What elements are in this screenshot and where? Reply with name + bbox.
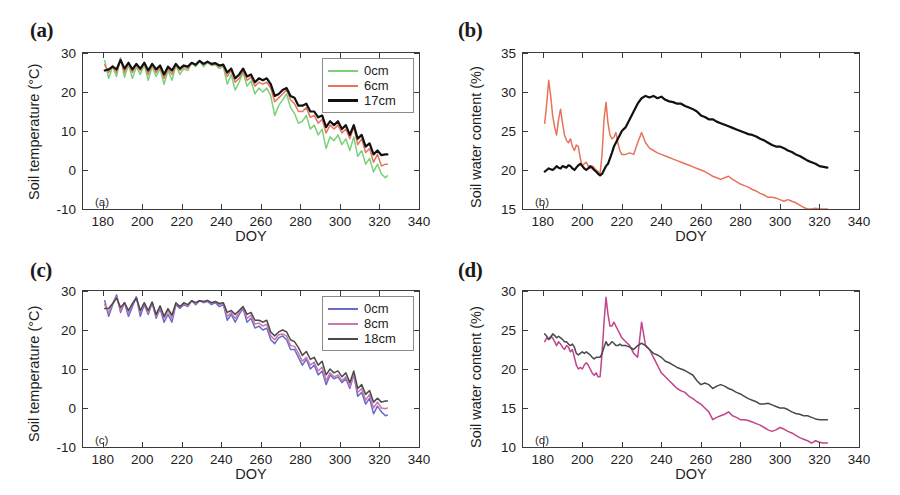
panel-d-axes: [522, 290, 860, 448]
panel-c-legend[interactable]: 0cm8cm18cm: [322, 296, 414, 351]
xtick-mark: [582, 442, 583, 447]
xtick-mark-top: [661, 53, 662, 58]
xtick-mark-top: [142, 53, 143, 58]
legend-entry[interactable]: 18cm: [328, 331, 406, 346]
xtick-mark: [261, 204, 262, 209]
xtick-mark: [701, 442, 702, 447]
ytick-label: 20: [478, 362, 516, 377]
xtick-mark-top: [859, 291, 860, 296]
panel-d-plot: (d) 1015202530 1802002202402602803003203…: [450, 248, 900, 495]
ytick-mark: [523, 447, 528, 448]
ytick-mark: [523, 330, 528, 331]
xtick-label: 320: [368, 214, 391, 229]
legend-entry[interactable]: 0cm: [328, 63, 406, 78]
xtick-label: 260: [250, 214, 273, 229]
legend-label: 0cm: [364, 63, 389, 78]
series-18cm: [545, 334, 828, 420]
xtick-mark: [221, 442, 222, 447]
xtick-mark: [543, 442, 544, 447]
xtick-label: 280: [289, 452, 312, 467]
ytick-mark-right: [854, 131, 859, 132]
ytick-mark: [523, 291, 528, 292]
xtick-label: 200: [131, 214, 154, 229]
xtick-mark-top: [622, 53, 623, 58]
xtick-mark: [661, 442, 662, 447]
ytick-mark-right: [854, 369, 859, 370]
xtick-label: 240: [210, 214, 233, 229]
ytick-mark-right: [414, 330, 419, 331]
xtick-label: 220: [171, 452, 194, 467]
xtick-mark-top: [142, 291, 143, 296]
xtick-mark: [701, 204, 702, 209]
ytick-mark-right: [854, 330, 859, 331]
ytick-label: 15: [478, 401, 516, 416]
xtick-label: 180: [531, 452, 554, 467]
ytick-label: 30: [478, 284, 516, 299]
ytick-label: 15: [478, 202, 516, 217]
xtick-mark: [261, 442, 262, 447]
panel-b-xlabel: DOY: [641, 228, 741, 244]
xtick-mark-top: [221, 53, 222, 58]
xtick-label: 240: [210, 452, 233, 467]
legend-entry[interactable]: 8cm: [328, 316, 406, 331]
xtick-mark-top: [543, 53, 544, 58]
ytick-mark: [83, 209, 88, 210]
xtick-mark: [780, 204, 781, 209]
ytick-mark: [523, 209, 528, 210]
legend-swatch-icon: [328, 338, 358, 340]
ytick-mark: [83, 330, 88, 331]
legend-label: 0cm: [364, 301, 389, 316]
xtick-label: 320: [808, 452, 831, 467]
legend-label: 6cm: [364, 78, 389, 93]
ytick-label: 20: [478, 163, 516, 178]
panel-d-xlabel: DOY: [641, 466, 741, 482]
ytick-label: 30: [38, 284, 76, 299]
ytick-label: 0: [38, 401, 76, 416]
ytick-mark: [523, 92, 528, 93]
ytick-mark: [523, 408, 528, 409]
panel-a-legend[interactable]: 0cm6cm17cm: [322, 58, 414, 113]
ytick-label: 25: [478, 323, 516, 338]
xtick-mark-top: [780, 291, 781, 296]
xtick-mark: [740, 442, 741, 447]
legend-entry[interactable]: 0cm: [328, 301, 406, 316]
xtick-label: 280: [729, 452, 752, 467]
panel-d-curves: [523, 291, 859, 447]
xtick-label: 200: [571, 452, 594, 467]
legend-swatch-icon: [328, 99, 358, 102]
xtick-mark: [103, 442, 104, 447]
xtick-label: 220: [611, 214, 634, 229]
xtick-label: 200: [131, 452, 154, 467]
panel-a-plot: (a) -100102030 1802002202402602803003203…: [0, 0, 450, 248]
xtick-mark: [419, 442, 420, 447]
legend-swatch-icon: [328, 85, 358, 87]
xtick-mark-top: [419, 53, 420, 58]
xtick-mark-top: [582, 53, 583, 58]
ytick-mark: [83, 170, 88, 171]
ytick-mark: [83, 53, 88, 54]
xtick-mark-top: [859, 53, 860, 58]
xtick-label: 260: [690, 214, 713, 229]
legend-entry[interactable]: 6cm: [328, 78, 406, 93]
legend-label: 8cm: [364, 316, 389, 331]
xtick-mark-top: [543, 291, 544, 296]
ytick-mark-right: [414, 131, 419, 132]
xtick-mark: [819, 442, 820, 447]
xtick-mark: [182, 442, 183, 447]
xtick-label: 180: [91, 452, 114, 467]
ytick-mark: [523, 369, 528, 370]
xtick-mark-top: [182, 291, 183, 296]
xtick-label: 320: [368, 452, 391, 467]
xtick-mark-top: [419, 291, 420, 296]
panel-a-xlabel: DOY: [201, 228, 301, 244]
xtick-label: 220: [611, 452, 634, 467]
xtick-mark-top: [261, 291, 262, 296]
xtick-mark-top: [622, 291, 623, 296]
xtick-mark-top: [740, 53, 741, 58]
ytick-label: 25: [478, 124, 516, 139]
legend-entry[interactable]: 17cm: [328, 93, 406, 108]
xtick-label: 280: [729, 214, 752, 229]
legend-label: 17cm: [364, 93, 396, 108]
ytick-mark: [83, 92, 88, 93]
ytick-mark: [83, 369, 88, 370]
